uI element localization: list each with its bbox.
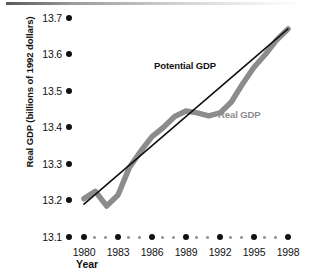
x-minor-dot-1990 <box>195 236 198 239</box>
x-tick-dot-1989 <box>183 234 189 240</box>
x-tick-dot-1998 <box>285 234 291 240</box>
x-axis-title: Year <box>76 258 98 270</box>
x-minor-dot-1991 <box>206 236 209 239</box>
x-minor-dot-1996 <box>263 236 266 239</box>
x-minor-dot-1993 <box>229 236 232 239</box>
gdp-chart: Real GDP (billions of 1992 dollars) 13.7… <box>0 0 320 276</box>
series-label-real-gdp: Real GDP <box>218 109 261 120</box>
x-minor-dot-1987 <box>161 236 164 239</box>
x-tick-dot-1992 <box>217 234 223 240</box>
plot-area <box>0 0 320 276</box>
x-minor-dot-1997 <box>274 236 277 239</box>
x-tick-dot-1986 <box>149 234 155 240</box>
x-tick-dot-1980 <box>81 234 87 240</box>
x-tick-dot-1995 <box>251 234 257 240</box>
x-minor-dot-1985 <box>138 236 141 239</box>
x-minor-dot-1982 <box>104 236 107 239</box>
x-tick-dot-1983 <box>115 234 121 240</box>
series-label-potential-gdp: Potential GDP <box>154 60 216 71</box>
x-minor-dot-1988 <box>172 236 175 239</box>
x-minor-dot-1994 <box>240 236 243 239</box>
x-tick-label-1998: 1998 <box>268 246 308 258</box>
x-minor-dot-1981 <box>93 236 96 239</box>
x-minor-dot-1984 <box>127 236 130 239</box>
